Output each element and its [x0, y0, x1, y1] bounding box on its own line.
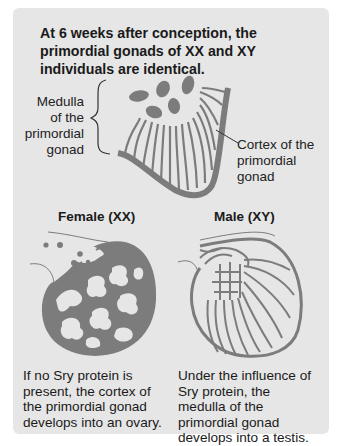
- male-heading: Male (XY): [214, 209, 275, 224]
- ovary-illustration: [30, 232, 156, 356]
- male-description: Under the influence of Sry protein, the …: [178, 368, 318, 446]
- medulla-label: Medulla of the primordial gonad: [24, 94, 84, 158]
- primordial-gonad-illustration: [91, 80, 238, 195]
- medulla-cell-clusters: [128, 74, 196, 120]
- female-heading: Female (XX): [58, 209, 135, 224]
- testis-illustration: [178, 232, 301, 356]
- cortex-label: Cortex of the primordial gonad: [237, 137, 327, 185]
- female-description: If no Sry protein is present, the cortex…: [23, 368, 163, 430]
